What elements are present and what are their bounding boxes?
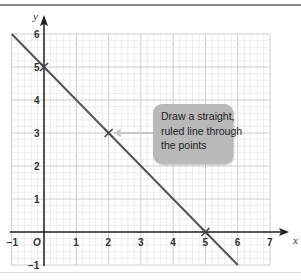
svg-text:O: O [33,237,41,248]
svg-text:3: 3 [138,237,144,248]
callout-box: Draw a straight, ruled line through the … [153,104,233,164]
svg-text:y: y [32,10,38,22]
coordinate-grid: −11234567−1123456Oxy [0,0,301,280]
svg-text:1: 1 [73,237,79,248]
svg-text:4: 4 [170,237,176,248]
svg-text:6: 6 [235,237,241,248]
bottom-rule [0,272,301,273]
svg-text:5: 5 [203,237,209,248]
svg-text:4: 4 [34,95,40,106]
svg-text:6: 6 [34,29,40,40]
svg-text:−1: −1 [7,237,19,248]
svg-text:5: 5 [34,62,40,73]
svg-text:2: 2 [34,161,40,172]
callout-text: Draw a straight, ruled line through the … [161,109,242,153]
axes [10,15,289,266]
svg-text:2: 2 [106,237,112,248]
svg-text:3: 3 [34,128,40,139]
svg-text:−1: −1 [28,260,40,271]
svg-text:x: x [292,234,298,246]
svg-text:1: 1 [34,194,40,205]
svg-text:7: 7 [267,237,273,248]
